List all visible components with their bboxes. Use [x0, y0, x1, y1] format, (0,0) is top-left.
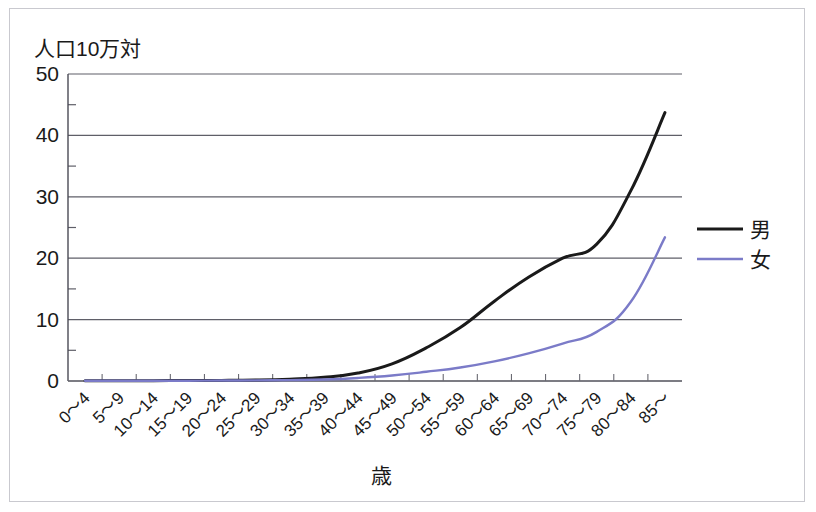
legend: 男 女: [697, 218, 771, 271]
x-axis-title: 歳: [371, 464, 392, 487]
y-tick-label-30: 30: [36, 185, 59, 208]
x-tick-labels: 0～45～910～1415～1920～2425～2930～3435～3940～4…: [55, 388, 674, 440]
y-tick-label-50: 50: [36, 62, 59, 85]
legend-label-male: 男: [750, 218, 771, 241]
chart-root: 人口10万対 01020304050 0～45～910～1415～1920～24…: [0, 0, 816, 512]
y-axis-unit-label: 人口10万対: [34, 37, 141, 60]
y-tick-label-0: 0: [47, 369, 59, 392]
x-tick-label-0: 0～4: [55, 388, 94, 427]
series-line-female: [85, 237, 665, 380]
y-tick-label-10: 10: [36, 308, 59, 331]
x-tick-label-17: 85～: [635, 388, 674, 427]
line-chart: 人口10万対 01020304050 0～45～910～1415～1920～24…: [0, 0, 816, 512]
y-tick-labels: 01020304050: [36, 62, 59, 392]
y-tick-label-20: 20: [36, 246, 59, 269]
y-tick-label-40: 40: [36, 123, 59, 146]
y-minor-ticks: [68, 105, 76, 351]
data-series-layer: [85, 113, 665, 381]
legend-label-female: 女: [750, 248, 771, 271]
